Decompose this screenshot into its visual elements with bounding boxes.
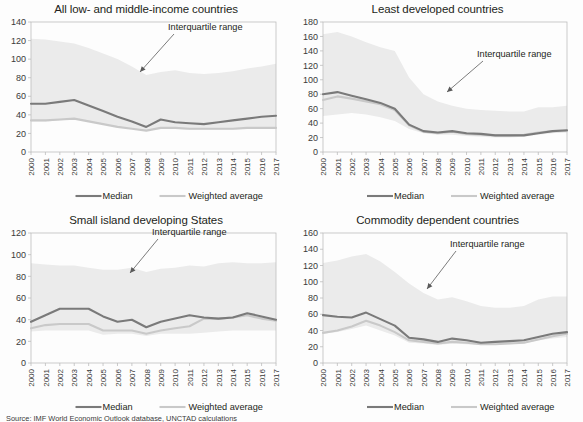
interquartile-range-annotation: Interquartile range [450,239,525,249]
x-axis-tick-label: 2002 [56,368,65,386]
panel-small-island-developing-states: Small island developing States 020406080… [0,211,292,422]
annotation-arrow-line [427,251,456,289]
x-axis-tick-label: 2015 [243,157,252,175]
annotation-arrow-line [130,239,158,273]
x-axis-tick-label: 2009 [157,368,166,386]
y-axis-tick-label: 20 [308,342,318,352]
y-axis-tick-label: 120 [303,261,318,271]
y-axis-tick-label: 80 [16,73,26,83]
x-axis-tick-label: 2007 [128,368,137,386]
y-axis-tick-label: 160 [303,228,318,238]
y-axis-tick-label: 140 [303,46,318,56]
plot-area: 0204060801001201401601802000200120022003… [292,0,583,211]
y-axis-tick-label: 100 [11,250,26,260]
x-axis-tick-label: 2007 [128,157,137,175]
x-axis-tick-label: 2005 [391,368,400,386]
y-axis-tick-label: 40 [308,118,318,128]
x-axis-tick-label: 2014 [520,157,529,175]
x-axis-tick-label: 2009 [157,157,166,175]
x-axis-tick-label: 2001 [334,157,343,175]
x-axis-tick-label: 2008 [143,368,152,386]
x-axis-tick-label: 2002 [348,157,357,175]
y-axis-tick-label: 20 [16,337,26,347]
x-axis-tick-label: 2004 [85,157,94,175]
x-axis-tick-label: 2015 [243,368,252,386]
x-axis-tick-label: 2017 [563,368,572,386]
y-axis-tick-label: 40 [16,315,26,325]
x-axis-tick-label: 2008 [434,157,443,175]
x-axis-tick-label: 2001 [334,368,343,386]
y-axis-tick-label: 100 [303,75,318,85]
interquartile-range-band [323,32,567,138]
chart-svg-1: 0204060801001201401601802000200120022003… [292,0,583,211]
x-axis-tick-label: 2010 [171,157,180,175]
y-axis-tick-label: 140 [303,244,318,254]
legend-weighted-average-label: Weighted average [480,191,554,201]
x-axis-tick-label: 2016 [258,157,267,175]
x-axis-tick-label: 2000 [319,157,328,175]
y-axis-tick-label: 80 [308,293,318,303]
x-axis-tick-label: 2010 [463,368,472,386]
panel-least-developed-countries: Least developed countries 02040608010012… [292,0,583,211]
y-axis-tick-label: 100 [303,277,318,287]
legend-median-label: Median [103,191,133,201]
panel-all-low-and-middle-income: All low- and middle-income countries 020… [0,0,292,211]
chart-svg-2: 0204060801001202000200120022003200420052… [0,211,292,422]
y-axis-tick-label: 120 [11,228,26,238]
y-axis-tick-label: 20 [16,129,26,139]
x-axis-tick-label: 2000 [27,157,36,175]
x-axis-tick-label: 2011 [186,368,195,386]
x-axis-tick-label: 2013 [215,157,224,175]
y-axis-tick-label: 140 [11,17,26,27]
legend-median-label: Median [103,402,133,412]
x-axis-tick-label: 2003 [362,368,371,386]
legend-weighted-average-label: Weighted average [189,402,263,412]
x-axis-tick-label: 2017 [272,368,281,386]
y-axis-tick-label: 120 [11,36,26,46]
x-axis-tick-label: 2010 [463,157,472,175]
y-axis-tick-label: 40 [16,110,26,120]
plot-area: 0204060801001201402000200120022003200420… [0,0,292,211]
x-axis-tick-label: 2007 [420,368,429,386]
plot-area: 0204060801001201401602000200120022003200… [292,211,583,422]
annotation-arrow-line [447,61,483,92]
x-axis-tick-label: 2016 [549,157,558,175]
x-axis-tick-label: 2011 [186,157,195,175]
y-axis-tick-label: 0 [21,147,26,157]
chart-grid: All low- and middle-income countries 020… [0,0,583,422]
x-axis-tick-label: 2014 [229,368,238,386]
x-axis-tick-label: 2008 [434,368,443,386]
annotation-arrow-head [427,283,432,289]
x-axis-tick-label: 2009 [448,368,457,386]
x-axis-tick-label: 2006 [114,368,123,386]
x-axis-tick-label: 2013 [506,157,515,175]
x-axis-tick-label: 2003 [70,368,79,386]
x-axis-tick-label: 2011 [477,368,486,386]
y-axis-tick-label: 0 [21,358,26,368]
x-axis-tick-label: 2012 [200,157,209,175]
x-axis-tick-label: 2006 [405,368,414,386]
x-axis-tick-label: 2015 [535,157,544,175]
x-axis-tick-label: 2017 [563,157,572,175]
x-axis-tick-label: 2009 [448,157,457,175]
y-axis-tick-label: 0 [313,147,318,157]
x-axis-tick-label: 2002 [348,368,357,386]
x-axis-tick-label: 2001 [42,368,51,386]
y-axis-tick-label: 80 [16,272,26,282]
y-axis-tick-label: 80 [308,89,318,99]
legend-median-label: Median [394,402,424,412]
x-axis-tick-label: 2007 [420,157,429,175]
interquartile-range-annotation: Interquartile range [152,227,227,237]
source-note: Source: IMF World Economic Outlook datab… [6,414,237,422]
x-axis-tick-label: 2000 [27,368,36,386]
interquartile-range-annotation: Interquartile range [477,49,552,59]
x-axis-tick-label: 2002 [56,157,65,175]
y-axis-tick-label: 60 [16,293,26,303]
interquartile-range-annotation: Interquartile range [168,22,243,32]
x-axis-tick-label: 2010 [171,368,180,386]
x-axis-tick-label: 2008 [143,157,152,175]
x-axis-tick-label: 2015 [535,368,544,386]
x-axis-tick-label: 2006 [114,157,123,175]
x-axis-tick-label: 2005 [391,157,400,175]
chart-svg-3: 0204060801001201401602000200120022003200… [292,211,583,422]
